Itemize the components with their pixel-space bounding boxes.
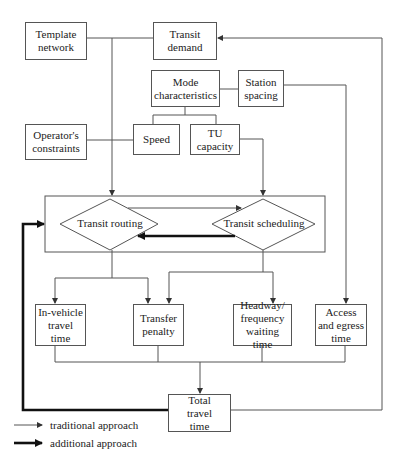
node-headway-waiting-time: Headway/ frequency waiting time <box>233 304 292 346</box>
node-template-network: Template network <box>25 22 87 60</box>
node-transit-scheduling: Transit scheduling <box>218 217 310 230</box>
node-label: Access and egress time <box>317 306 365 345</box>
node-label: Station spacing <box>240 76 282 102</box>
legend-additional: additional approach <box>50 437 137 450</box>
legend-traditional: traditional approach <box>50 419 138 432</box>
node-label: Mode characteristics <box>153 76 218 102</box>
node-label: Speed <box>143 133 170 146</box>
node-total-travel-time: Total travel time <box>168 394 231 432</box>
node-mode-characteristics: Mode characteristics <box>151 70 220 107</box>
node-tu-capacity: TU capacity <box>190 124 240 155</box>
node-transit-demand: Transit demand <box>153 22 217 60</box>
node-label: Headway/ frequency waiting time <box>235 299 290 351</box>
node-label: Transfer penalty <box>135 312 182 338</box>
node-label: Operator's constraints <box>27 129 85 155</box>
node-label: Transit demand <box>155 28 215 54</box>
node-speed: Speed <box>133 124 180 155</box>
node-in-vehicle-travel-time: In-vehicle travel time <box>35 304 86 346</box>
node-label: Total travel time <box>181 394 218 433</box>
node-transit-routing: Transit routing <box>70 217 150 230</box>
node-label: In-vehicle travel time <box>37 306 84 345</box>
node-transfer-penalty: Transfer penalty <box>133 304 184 346</box>
node-access-egress-time: Access and egress time <box>315 304 367 346</box>
node-label: Template network <box>27 28 85 54</box>
node-operators-constraints: Operator's constraints <box>25 124 87 160</box>
node-label: TU capacity <box>192 127 238 153</box>
node-station-spacing: Station spacing <box>238 70 284 107</box>
